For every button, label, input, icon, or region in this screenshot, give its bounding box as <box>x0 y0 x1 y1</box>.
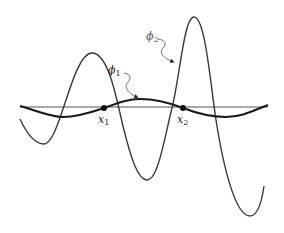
x1-label: x1 <box>98 114 109 127</box>
x2-label: x2 <box>177 114 188 127</box>
phi1-leader-arrow <box>124 73 138 98</box>
x2-point-marker <box>180 105 186 111</box>
phi2-label: ϕ2 <box>146 31 159 44</box>
x1-point-marker <box>101 105 107 111</box>
diagram-svg <box>0 0 284 233</box>
phi2-leader-arrow <box>158 39 174 62</box>
phi1-label: ϕ1 <box>108 65 121 78</box>
phi1-curve <box>20 99 268 117</box>
diagram-canvas: ϕ1 ϕ2 x1 x2 <box>0 0 284 233</box>
